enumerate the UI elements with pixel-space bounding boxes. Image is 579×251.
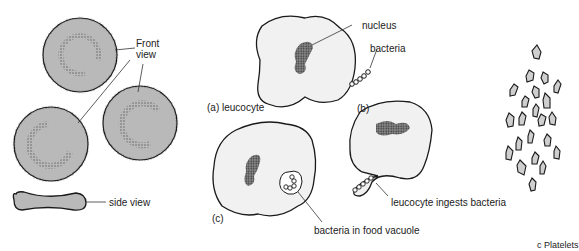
platelets-cluster	[506, 45, 561, 191]
bacteria-label: bacteria	[370, 43, 406, 54]
nucleus-label: nucleus	[362, 20, 396, 31]
leucocyte-b	[350, 101, 432, 196]
red-blood-cell-bottom-left	[14, 107, 88, 181]
platelets-caption: c Platelets	[537, 240, 579, 251]
vacuole-label: bacteria in food vacuole	[314, 225, 420, 236]
leucocyte-c	[213, 122, 316, 216]
leucocyte-a	[256, 16, 355, 107]
stage-c-label: (c)	[212, 213, 224, 224]
front-view-label: Front view	[136, 38, 159, 60]
ingests-label: leucocyte ingests bacteria	[391, 197, 506, 208]
red-blood-cell-top	[43, 18, 117, 92]
leucocyte-a-label: (a) leucocyte	[207, 102, 264, 113]
side-view-label: side view	[109, 197, 150, 208]
stage-b-label: (b)	[357, 103, 369, 114]
red-blood-cell-side-view	[13, 192, 86, 210]
red-blood-cell-right	[103, 86, 177, 160]
